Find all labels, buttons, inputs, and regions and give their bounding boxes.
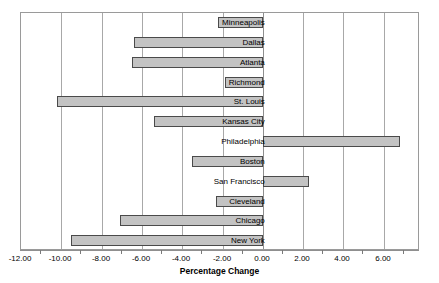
- x-tick: [322, 250, 323, 254]
- x-tick: [362, 250, 363, 254]
- bar-row: Richmond: [21, 73, 418, 93]
- bar-category-label: Philadelphia: [21, 134, 267, 149]
- bar-row: St. Louis: [21, 92, 418, 112]
- bar-row: Philadelphia: [21, 132, 418, 152]
- x-tick-label: -10.00: [49, 254, 72, 263]
- x-tick: [403, 250, 404, 254]
- bar-row: Cleveland: [21, 192, 418, 212]
- bar-category-label: Dallas: [21, 35, 267, 50]
- bar-category-label: Atlanta: [21, 55, 267, 70]
- x-tick: [40, 250, 41, 254]
- x-tick-label: 4.00: [334, 254, 350, 263]
- bar-row: Minneapolis: [21, 13, 418, 33]
- bar-category-label: Kansas City: [21, 114, 267, 129]
- plot-area: MinneapolisDallasAtlantaRichmondSt. Loui…: [20, 12, 419, 250]
- bar-category-label: New York: [21, 233, 267, 248]
- bar-san-francisco[interactable]: [263, 176, 309, 187]
- percentage-change-bar-chart: MinneapolisDallasAtlantaRichmondSt. Loui…: [0, 0, 439, 283]
- x-axis-title: Percentage Change: [0, 266, 439, 276]
- x-tick: [242, 250, 243, 254]
- x-tick-label: -6.00: [132, 254, 150, 263]
- x-tick: [80, 250, 81, 254]
- bar-row: Chicago: [21, 211, 418, 231]
- x-tick-label: -4.00: [172, 254, 190, 263]
- x-tick: [121, 250, 122, 254]
- x-tick-label: -8.00: [92, 254, 110, 263]
- bar-category-label: Chicago: [21, 213, 267, 228]
- x-tick: [161, 250, 162, 254]
- x-tick-label: -12.00: [9, 254, 32, 263]
- bar-row: Atlanta: [21, 53, 418, 73]
- bar-category-label: San Francisco: [21, 174, 267, 189]
- bar-row: San Francisco: [21, 172, 418, 192]
- bar-row: Boston: [21, 152, 418, 172]
- bar-row: New York: [21, 231, 418, 251]
- bar-category-label: Cleveland: [21, 194, 267, 209]
- bar-category-label: Minneapolis: [21, 15, 267, 30]
- bar-row: Dallas: [21, 33, 418, 53]
- x-tick-label: 0.00: [254, 254, 270, 263]
- x-tick: [201, 250, 202, 254]
- x-tick-label: 2.00: [294, 254, 310, 263]
- x-axis-line: [20, 250, 419, 251]
- x-tick: [282, 250, 283, 254]
- bar-category-label: Boston: [21, 154, 267, 169]
- bar-category-label: Richmond: [21, 75, 267, 90]
- bar-category-label: St. Louis: [21, 94, 267, 109]
- bar-philadelphia[interactable]: [263, 136, 400, 147]
- bar-row: Kansas City: [21, 112, 418, 132]
- x-tick-label: 6.00: [375, 254, 391, 263]
- x-tick-label: -2.00: [213, 254, 231, 263]
